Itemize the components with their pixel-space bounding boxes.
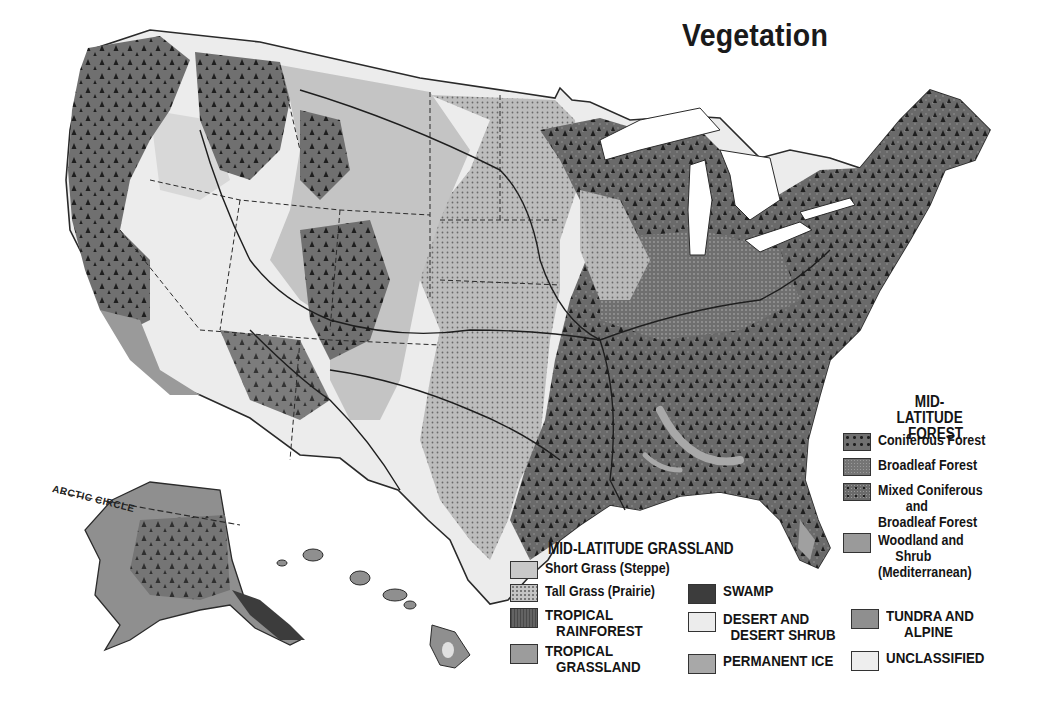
swamp-swatch-icon: [688, 584, 716, 604]
legend-grassland-heading: MID-LATITUDE GRASSLAND: [548, 541, 734, 557]
legend-item-short-grass: Short Grass (Steppe): [510, 560, 690, 579]
tropical-grassland-swatch-icon: [510, 644, 538, 664]
legend-label: TROPICAL RAINFOREST: [545, 607, 643, 639]
map-title: Vegetation: [682, 18, 828, 54]
legend-item-desert: DESERT AND DESERT SHRUB: [688, 611, 854, 643]
legend-label: TROPICAL GRASSLAND: [545, 643, 641, 675]
unclassified-swatch-icon: [851, 651, 879, 671]
legend-label: PERMANENT ICE: [723, 653, 833, 669]
legend-item-tropical-rainforest: TROPICAL RAINFOREST: [510, 607, 659, 639]
legend-item-mixed: Mixed Coniferous and Broadleaf Forest: [843, 482, 1000, 530]
legend-label: UNCLASSIFIED: [886, 650, 985, 666]
legend-label: SWAMP: [723, 583, 773, 599]
rainforest-pattern-icon: [510, 608, 538, 628]
legend-label: DESERT AND DESERT SHRUB: [723, 611, 836, 643]
legend-label: Broadleaf Forest: [878, 457, 977, 473]
legend-item-broadleaf: Broadleaf Forest: [843, 457, 993, 476]
legend-label: Short Grass (Steppe): [545, 560, 670, 576]
woodland-swatch-icon: [843, 533, 871, 553]
alaska-coniferous: [130, 515, 230, 600]
broadleaf-pattern-icon: [843, 458, 871, 476]
desert-swatch-icon: [688, 612, 716, 632]
tundra-swatch-icon: [851, 609, 879, 629]
legend-item-permanent-ice: PERMANENT ICE: [688, 653, 851, 674]
legend-item-woodland: Woodland and Shrub (Mediterranean): [843, 532, 987, 580]
legend-item-tundra: TUNDRA AND ALPINE: [851, 608, 988, 640]
legend-label: Woodland and Shrub (Mediterranean): [878, 532, 972, 580]
legend-forest-heading-line1: MID-LATITUDE: [882, 394, 977, 426]
legend-label: TUNDRA AND ALPINE: [886, 608, 974, 640]
tall-grass-pattern-icon: [510, 584, 538, 602]
hawaii: [277, 549, 470, 668]
legend-item-coniferous: Coniferous Forest: [843, 432, 1003, 451]
legend-item-tropical-grassland: TROPICAL GRASSLAND: [510, 643, 656, 675]
legend-label: Mixed Coniferous and Broadleaf Forest: [878, 482, 983, 530]
legend-item-unclassified: UNCLASSIFIED: [851, 650, 1001, 671]
ice-swatch-icon: [688, 654, 716, 674]
coniferous-pattern-icon: [843, 433, 871, 451]
short-grass-swatch-icon: [510, 561, 538, 579]
legend-item-swamp: SWAMP: [688, 583, 782, 604]
legend-label: Tall Grass (Prairie): [545, 583, 655, 599]
legend-item-tall-grass: Tall Grass (Prairie): [510, 583, 673, 602]
legend-label: Coniferous Forest: [878, 432, 985, 448]
mixed-pattern-icon: [843, 483, 871, 501]
